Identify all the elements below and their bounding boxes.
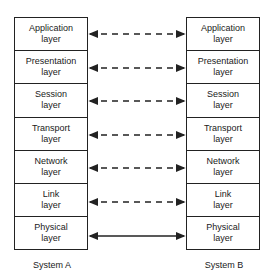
system-b-label: System B [186, 260, 262, 270]
connection-arrows [0, 0, 274, 277]
system-a-label: System A [14, 260, 90, 270]
